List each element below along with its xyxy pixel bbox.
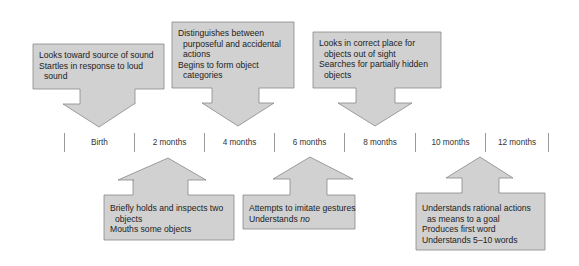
callout-line: Understands rational actions [422,203,531,214]
callout-line: actions [178,49,281,60]
timeline-label-4months: 4 months [205,134,274,152]
callout-12months-text: Understands rational actions as means to… [422,203,531,245]
timeline-label-2months: 2 months [135,134,204,152]
callout-line: Understands no [249,214,356,225]
timeline-label-12months: 12 months [486,134,548,152]
timeline-label-birth: Birth [65,134,134,152]
callout-line: as means to a goal [422,214,531,225]
callout-line: objects out of sight [319,49,428,60]
callout-8months-text: Looks in correct place for objects out o… [319,38,428,80]
callout-birth-text: Looks toward source of sound Startles in… [39,50,154,82]
callout-line: Attempts to imitate gestures [249,203,356,214]
callout-line: purposeful and accidental [178,39,281,50]
callout-line: Mouths some objects [110,224,223,235]
callout-4months-text: Distinguishes between purposeful and acc… [178,28,281,81]
timeline-divider [548,133,549,152]
timeline-label-8months: 8 months [345,134,415,152]
callout-line: Produces first word [422,224,531,235]
callout-line: Begins to form object [178,60,281,71]
callout-line: Startles in response to loud [39,61,154,72]
callout-line: sound [39,71,154,82]
callout-line-text: Understands [249,214,300,224]
callout-line: Distinguishes between [178,28,281,39]
callout-line: Looks in correct place for [319,38,428,49]
callout-emphasis: no [300,214,310,224]
timeline-label-6months: 6 months [275,134,344,152]
callout-line: objects [110,214,223,225]
callout-line: Briefly holds and inspects two [110,203,223,214]
callout-line: objects [319,70,428,81]
callout-6months-text: Attempts to imitate gestures Understands… [249,203,356,224]
callout-line: Understands 5–10 words [422,235,531,246]
callout-2months-text: Briefly holds and inspects two objects M… [110,203,223,235]
callout-line: Searches for partially hidden [319,59,428,70]
callout-line: Looks toward source of sound [39,50,154,61]
timeline-label-10months: 10 months [416,134,485,152]
callout-line: categories [178,70,281,81]
